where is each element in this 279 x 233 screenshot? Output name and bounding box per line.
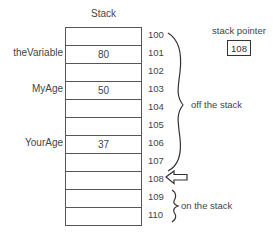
left-arrow-icon	[166, 171, 187, 184]
off-stack-brace-icon	[168, 33, 183, 171]
brace-and-arrow-graphics	[0, 0, 279, 233]
on-the-stack-label: on the stack	[181, 200, 232, 211]
on-stack-brace-icon	[172, 190, 178, 222]
off-the-stack-label: off the stack	[191, 99, 242, 110]
